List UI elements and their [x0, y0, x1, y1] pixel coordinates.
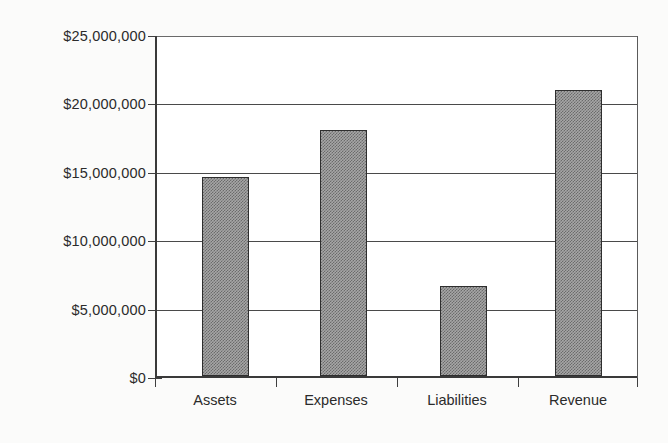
bar-expenses	[320, 130, 367, 376]
x-axis-label-assets: Assets	[193, 392, 237, 408]
bar-assets	[202, 177, 249, 376]
x-axis-tick-mark	[518, 378, 519, 387]
x-axis-tick-mark	[397, 378, 398, 387]
y-axis-labels: $25,000,000 $20,000,000 $15,000,000 $10,…	[0, 0, 146, 443]
bar-revenue	[555, 90, 602, 376]
y-axis-tick-label: $15,000,000	[63, 165, 146, 181]
x-axis-label-revenue: Revenue	[549, 392, 607, 408]
x-axis-tick-mark	[637, 378, 638, 387]
y-axis-tick-label: $0	[129, 370, 146, 386]
plot-area	[155, 36, 638, 378]
y-axis-tick-label: $20,000,000	[63, 96, 146, 112]
bar-liabilities	[440, 286, 487, 376]
y-axis-tick-label: $10,000,000	[63, 233, 146, 249]
x-axis-tick-mark	[155, 378, 156, 387]
x-axis-label-expenses: Expenses	[304, 392, 368, 408]
gridline-25m	[157, 36, 637, 37]
y-axis-tick-label: $25,000,000	[63, 28, 146, 44]
bar-chart: $25,000,000 $20,000,000 $15,000,000 $10,…	[0, 0, 668, 443]
x-axis-label-liabilities: Liabilities	[427, 392, 487, 408]
x-axis-tick-mark	[276, 378, 277, 387]
y-axis-tick-label: $5,000,000	[71, 302, 146, 318]
